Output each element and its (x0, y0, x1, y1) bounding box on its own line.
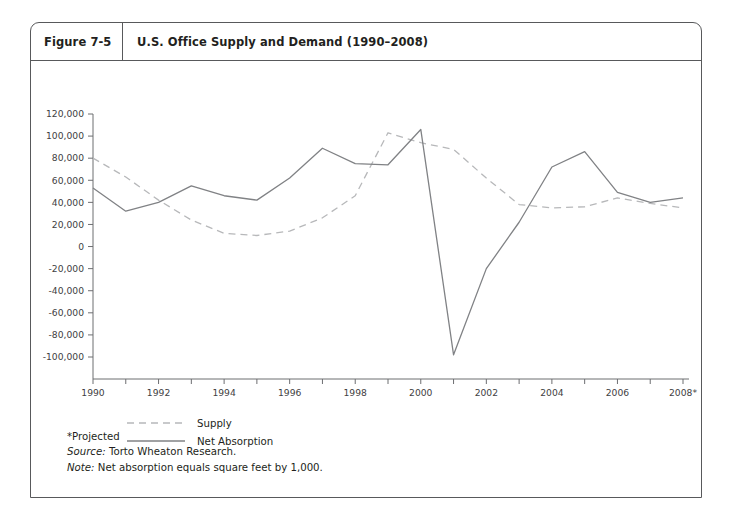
footnote-note-text: Net absorption equals square feet by 1,0… (98, 462, 323, 473)
figure-title: U.S. Office Supply and Demand (1990–2008… (137, 35, 428, 49)
figure-number: Figure 7-5 (44, 35, 111, 49)
y-tick-label: 60,000 (52, 175, 84, 186)
legend-label-supply: Supply (197, 418, 232, 429)
y-tick-label: -20,000 (49, 263, 85, 274)
footnote-source-text: Torto Wheaton Research. (109, 446, 236, 457)
x-tick-label: 2004 (540, 387, 564, 398)
x-tick-label: 1994 (212, 387, 236, 398)
y-tick-label: 80,000 (52, 152, 84, 163)
x-tick-label: 1996 (278, 387, 302, 398)
x-axis: 1990199219941996199820002002200420062008… (81, 379, 697, 398)
y-tick-label: 40,000 (52, 197, 84, 208)
x-tick-label: 2006 (606, 387, 630, 398)
y-tick-label: -40,000 (49, 285, 85, 296)
footnote-projected: *Projected (67, 429, 323, 445)
figure-header: Figure 7-5 U.S. Office Supply and Demand… (31, 23, 701, 61)
y-tick-label: -100,000 (43, 351, 84, 362)
x-tick-label: 1990 (81, 387, 105, 398)
x-tick-label: 2000 (409, 387, 433, 398)
y-tick-label: 120,000 (46, 108, 84, 119)
y-tick-label: -60,000 (49, 307, 85, 318)
x-tick-label: 2002 (475, 387, 498, 398)
footnotes-block: *Projected Source: Torto Wheaton Researc… (67, 429, 323, 476)
figure-frame: Figure 7-5 U.S. Office Supply and Demand… (30, 22, 702, 498)
figure-number-cell: Figure 7-5 (31, 23, 123, 60)
y-axis: 120,000100,00080,00060,00040,00020,0000-… (43, 108, 93, 379)
y-tick-label: 20,000 (52, 219, 84, 230)
footnote-note-label: Note: (67, 462, 95, 473)
x-tick-label: 1998 (344, 387, 368, 398)
x-tick-label: 2008* (669, 387, 697, 398)
y-tick-label: -80,000 (49, 329, 85, 340)
footnote-source-label: Source: (67, 446, 106, 457)
series-line-supply (93, 133, 683, 236)
footnote-source: Source: Torto Wheaton Research. (67, 444, 323, 460)
figure-title-cell: U.S. Office Supply and Demand (1990–2008… (123, 23, 701, 60)
y-tick-label: 0 (78, 241, 84, 252)
footnote-note: Note: Net absorption equals square feet … (67, 460, 323, 476)
series-line-net-absorption (93, 129, 683, 354)
x-tick-label: 1992 (147, 387, 170, 398)
y-tick-label: 100,000 (46, 130, 84, 141)
